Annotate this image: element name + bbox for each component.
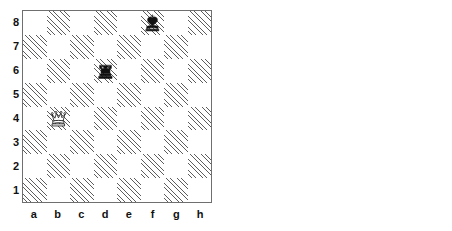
square-a6[interactable]	[23, 59, 47, 83]
rank-label-4: 4	[6, 107, 22, 131]
square-b5[interactable]	[47, 83, 71, 107]
left-chess-diagram: 87654321 abcdefgh	[0, 0, 226, 231]
square-c2[interactable]	[70, 154, 94, 178]
square-e5[interactable]	[117, 83, 141, 107]
square-h2[interactable]	[188, 154, 212, 178]
square-e2[interactable]	[117, 154, 141, 178]
rank-label-6: 6	[6, 58, 22, 82]
white-queen-b4[interactable]	[48, 108, 69, 129]
square-d6[interactable]	[94, 59, 118, 83]
square-b3[interactable]	[47, 130, 71, 154]
square-d5[interactable]	[94, 83, 118, 107]
square-b7[interactable]	[47, 35, 71, 59]
square-d3[interactable]	[94, 130, 118, 154]
square-c4[interactable]	[70, 107, 94, 131]
square-c6[interactable]	[70, 59, 94, 83]
square-c1[interactable]	[70, 178, 94, 202]
square-f3[interactable]	[141, 130, 165, 154]
square-g5[interactable]	[164, 83, 188, 107]
rank-labels-left: 87654321	[6, 10, 22, 203]
square-f2[interactable]	[141, 154, 165, 178]
square-c3[interactable]	[70, 130, 94, 154]
square-f5[interactable]	[141, 83, 165, 107]
rank-label-2: 2	[6, 155, 22, 179]
file-labels-left: abcdefgh	[22, 203, 212, 225]
square-d7[interactable]	[94, 35, 118, 59]
square-g7[interactable]	[164, 35, 188, 59]
square-c5[interactable]	[70, 83, 94, 107]
square-d8[interactable]	[94, 11, 118, 35]
square-f6[interactable]	[141, 59, 165, 83]
square-f1[interactable]	[141, 178, 165, 202]
square-a8[interactable]	[23, 11, 47, 35]
file-label-a: a	[22, 203, 46, 225]
square-a5[interactable]	[23, 83, 47, 107]
square-b8[interactable]	[47, 11, 71, 35]
square-d4[interactable]	[94, 107, 118, 131]
square-e7[interactable]	[117, 35, 141, 59]
black-king-f8[interactable]	[142, 12, 163, 33]
square-b6[interactable]	[47, 59, 71, 83]
square-e3[interactable]	[117, 130, 141, 154]
square-f4[interactable]	[141, 107, 165, 131]
square-f7[interactable]	[141, 35, 165, 59]
file-label-f: f	[141, 203, 165, 225]
square-c8[interactable]	[70, 11, 94, 35]
square-a1[interactable]	[23, 178, 47, 202]
square-e6[interactable]	[117, 59, 141, 83]
square-b2[interactable]	[47, 154, 71, 178]
square-h7[interactable]	[188, 35, 212, 59]
file-label-b: b	[46, 203, 70, 225]
file-label-g: g	[165, 203, 189, 225]
rank-label-3: 3	[6, 131, 22, 155]
square-h3[interactable]	[188, 130, 212, 154]
square-d1[interactable]	[94, 178, 118, 202]
square-g2[interactable]	[164, 154, 188, 178]
file-label-c: c	[70, 203, 94, 225]
square-a4[interactable]	[23, 107, 47, 131]
file-label-h: h	[188, 203, 212, 225]
square-a2[interactable]	[23, 154, 47, 178]
square-g8[interactable]	[164, 11, 188, 35]
square-b1[interactable]	[47, 178, 71, 202]
black-rook-d6[interactable]	[95, 60, 116, 81]
chess-diagram-pair: 87654321 abcdefgh 87654321 abcdefgh	[0, 0, 452, 231]
square-b4[interactable]	[47, 107, 71, 131]
square-g4[interactable]	[164, 107, 188, 131]
square-h8[interactable]	[188, 11, 212, 35]
square-h4[interactable]	[188, 107, 212, 131]
square-e1[interactable]	[117, 178, 141, 202]
square-f8[interactable]	[141, 11, 165, 35]
square-e8[interactable]	[117, 11, 141, 35]
square-e4[interactable]	[117, 107, 141, 131]
square-h5[interactable]	[188, 83, 212, 107]
square-g1[interactable]	[164, 178, 188, 202]
square-h1[interactable]	[188, 178, 212, 202]
square-a7[interactable]	[23, 35, 47, 59]
square-h6[interactable]	[188, 59, 212, 83]
square-a3[interactable]	[23, 130, 47, 154]
chessboard-left[interactable]	[22, 10, 212, 203]
rank-label-7: 7	[6, 34, 22, 58]
square-d2[interactable]	[94, 154, 118, 178]
square-c7[interactable]	[70, 35, 94, 59]
square-g6[interactable]	[164, 59, 188, 83]
rank-label-5: 5	[6, 82, 22, 106]
rank-label-8: 8	[6, 10, 22, 34]
file-label-d: d	[93, 203, 117, 225]
rank-label-1: 1	[6, 179, 22, 203]
square-g3[interactable]	[164, 130, 188, 154]
right-chess-diagram: 87654321 abcdefgh	[226, 0, 452, 231]
file-label-e: e	[117, 203, 141, 225]
